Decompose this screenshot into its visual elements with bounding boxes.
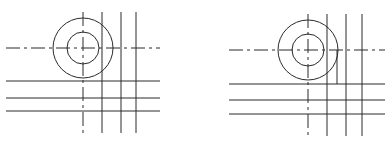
left-drawing — [6, 12, 160, 133]
technical-drawing-canvas — [0, 0, 389, 149]
right-drawing — [229, 14, 385, 136]
